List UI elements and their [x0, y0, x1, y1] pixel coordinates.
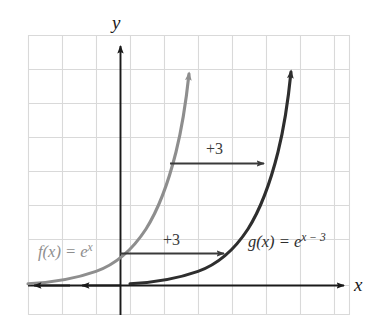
curve-g-label-exponent: x − 3 — [300, 231, 326, 243]
exponential-shift-figure: y x +3 +3 f(x) = ex g(x) = ex − 3 — [0, 0, 378, 334]
lower-shift-label: +3 — [163, 231, 180, 248]
chart-canvas: y x +3 +3 f(x) = ex g(x) = ex − 3 — [0, 0, 378, 334]
svg-text:f(x) = ex: f(x) = ex — [38, 241, 94, 261]
y-axis-label: y — [110, 12, 121, 33]
curve-f-label-text: f(x) = e — [38, 242, 88, 261]
upper-shift-label: +3 — [206, 140, 223, 157]
curve-f-label: f(x) = ex — [38, 241, 94, 261]
curve-g-label-text: g(x) = e — [248, 232, 301, 251]
x-axis-label: x — [353, 274, 363, 295]
curve-f-label-exponent: x — [87, 241, 94, 253]
